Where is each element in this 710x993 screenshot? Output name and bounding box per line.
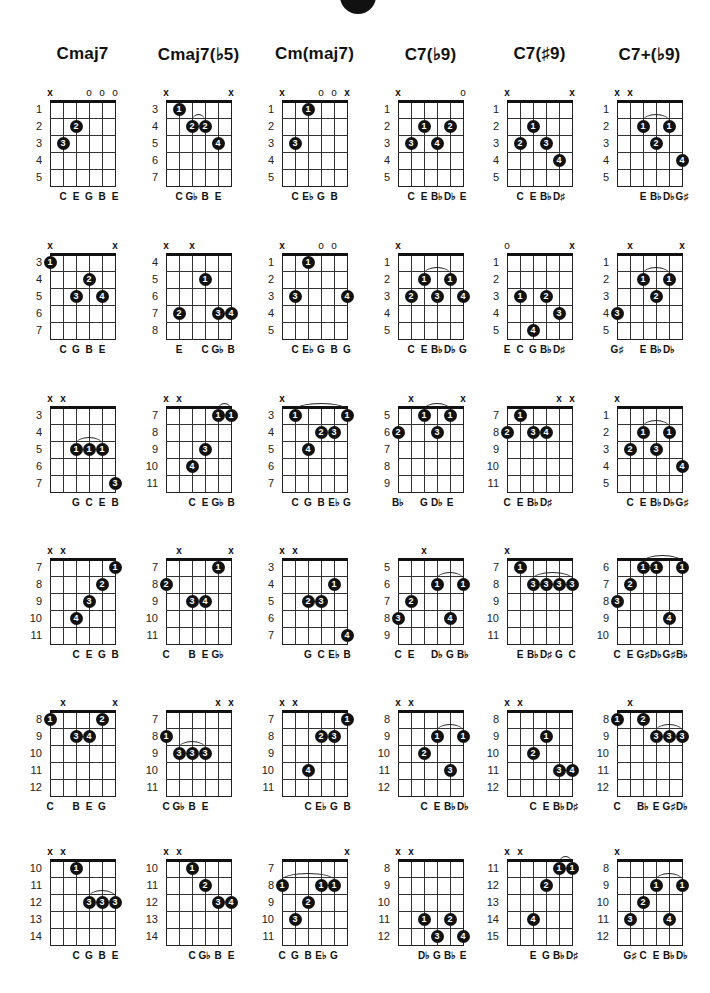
finger-dot: 3 <box>431 930 444 943</box>
note-label: C <box>609 801 625 812</box>
barre-arc <box>533 572 572 579</box>
finger-dot: 3 <box>328 426 341 439</box>
finger-dot: 1 <box>328 879 341 892</box>
finger-dot: 1 <box>611 713 624 726</box>
fret-number: 4 <box>591 460 609 472</box>
fret-number: 1 <box>372 103 390 115</box>
fret-line <box>50 288 115 289</box>
fret-line <box>166 135 231 136</box>
fret-number: 10 <box>140 862 158 874</box>
fret-line <box>166 928 231 929</box>
note-label: D♭ <box>661 344 677 355</box>
fret-line <box>166 169 231 170</box>
fret-line <box>398 118 463 119</box>
fret-number: 13 <box>24 913 42 925</box>
fret-number: 7 <box>24 561 42 573</box>
fret-number: 12 <box>24 896 42 908</box>
finger-dot: 3 <box>431 426 444 439</box>
nut-bar <box>50 558 116 561</box>
open-string-icon: o <box>316 241 326 251</box>
finger-dot: 3 <box>212 307 225 320</box>
column-title: C7+(♭9) <box>595 44 705 65</box>
fret-number: 3 <box>24 409 42 421</box>
muted-string-icon: x <box>567 88 577 98</box>
note-label: B♭ <box>390 497 406 508</box>
fret-line <box>50 152 115 153</box>
fret-number: 6 <box>372 578 390 590</box>
finger-dot: 1 <box>431 730 444 743</box>
fret-number: 2 <box>481 273 499 285</box>
fret-line <box>617 779 682 780</box>
column-title: Cm(maj7) <box>260 44 370 64</box>
fret-number: 4 <box>481 307 499 319</box>
finger-dot: 1 <box>444 273 457 286</box>
fret-number: 2 <box>591 426 609 438</box>
finger-dot: 4 <box>225 896 238 909</box>
note-label: G <box>339 344 355 355</box>
open-string-icon: o <box>502 241 512 251</box>
fret-number: 3 <box>140 103 158 115</box>
finger-dot: 1 <box>514 409 527 422</box>
muted-string-icon: x <box>502 88 512 98</box>
string-line <box>334 101 335 186</box>
fretboard-grid <box>282 711 348 797</box>
finger-dot: 1 <box>650 561 663 574</box>
fret-number: 1 <box>481 103 499 115</box>
fret-line <box>398 877 463 878</box>
finger-dot: 3 <box>611 595 624 608</box>
string-line <box>63 711 64 796</box>
fret-line <box>398 288 463 289</box>
muted-string-icon: x <box>406 698 416 708</box>
finger-dot: 3 <box>57 137 70 150</box>
muted-string-icon: x <box>502 698 512 708</box>
finger-dot: 3 <box>70 290 83 303</box>
fret-number: 8 <box>140 426 158 438</box>
muted-string-icon: x <box>290 698 300 708</box>
note-label: G <box>326 950 342 961</box>
note-label: G♯ <box>674 191 690 202</box>
fret-line <box>282 305 347 306</box>
fret-number: 3 <box>591 290 609 302</box>
finger-dot: 2 <box>405 290 418 303</box>
fret-number: 5 <box>481 324 499 336</box>
note-label: G♯ <box>674 497 690 508</box>
fret-number: 4 <box>256 307 274 319</box>
note-label: D♯ <box>551 191 567 202</box>
fret-line <box>398 475 463 476</box>
barre-arc <box>295 403 347 410</box>
fret-line <box>617 627 682 628</box>
string-line <box>411 860 412 945</box>
barre-arc <box>424 403 450 410</box>
fret-number: 1 <box>591 256 609 268</box>
fret-number: 12 <box>140 896 158 908</box>
fret-number: 8 <box>481 713 499 725</box>
fret-number: 11 <box>372 913 390 925</box>
fret-line <box>166 424 231 425</box>
finger-dot: 1 <box>637 426 650 439</box>
muted-string-icon: x <box>277 241 287 251</box>
finger-dot: 2 <box>315 730 328 743</box>
fret-number: 12 <box>481 879 499 891</box>
fret-line <box>166 593 231 594</box>
finger-dot: 3 <box>405 137 418 150</box>
fret-number: 9 <box>591 879 609 891</box>
fret-line <box>398 610 463 611</box>
fret-line <box>50 627 115 628</box>
string-line <box>437 559 438 644</box>
fret-number: 11 <box>256 781 274 793</box>
string-line <box>630 860 631 945</box>
string-line <box>546 711 547 796</box>
fret-line <box>166 288 231 289</box>
muted-string-icon: x <box>58 394 68 404</box>
finger-dot: 1 <box>96 443 109 456</box>
fret-line <box>507 169 572 170</box>
fret-number: 7 <box>140 713 158 725</box>
string-line <box>630 254 631 339</box>
barre-arc <box>643 267 669 274</box>
fret-line <box>282 475 347 476</box>
fret-number: 4 <box>372 307 390 319</box>
column-title: Cmaj7(♭5) <box>144 44 254 65</box>
string-line <box>63 407 64 492</box>
fret-line <box>507 441 572 442</box>
finger-dot: 1 <box>83 443 96 456</box>
